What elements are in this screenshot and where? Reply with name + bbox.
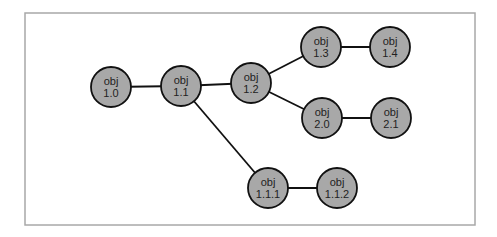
node-label-id: 1.0	[103, 87, 118, 99]
node-label-id: 1.3	[313, 47, 328, 59]
node-label-type: obj	[314, 35, 329, 47]
node-obj-2.1: obj2.1	[371, 98, 411, 138]
node-label-type: obj	[330, 176, 345, 188]
node-label-type: obj	[384, 106, 399, 118]
node-obj-1.1.2: obj1.1.2	[317, 168, 357, 208]
node-obj-1.2: obj1.2	[231, 63, 271, 103]
node-label-id: 1.4	[382, 47, 397, 59]
node-label-id: 2.1	[383, 118, 398, 130]
node-obj-2.0: obj2.0	[302, 98, 342, 138]
object-graph-diagram: obj1.0obj1.1obj1.2obj1.3obj1.4obj2.0obj2…	[0, 0, 497, 237]
node-obj-1.1.1: obj1.1.1	[248, 168, 288, 208]
node-label-type: obj	[104, 75, 119, 87]
node-label-id: 1.1.2	[325, 188, 349, 200]
node-label-id: 2.0	[314, 118, 329, 130]
node-obj-1.4: obj1.4	[370, 27, 410, 67]
node-label-id: 1.2	[243, 83, 258, 95]
node-label-type: obj	[315, 106, 330, 118]
node-label-id: 1.1.1	[256, 188, 280, 200]
node-label-type: obj	[383, 35, 398, 47]
node-obj-1.3: obj1.3	[301, 27, 341, 67]
node-label-type: obj	[244, 71, 259, 83]
node-label-type: obj	[174, 74, 189, 86]
node-label-id: 1.1	[173, 86, 188, 98]
node-obj-1.1: obj1.1	[161, 66, 201, 106]
node-label-type: obj	[261, 176, 276, 188]
node-obj-1.0: obj1.0	[91, 67, 131, 107]
